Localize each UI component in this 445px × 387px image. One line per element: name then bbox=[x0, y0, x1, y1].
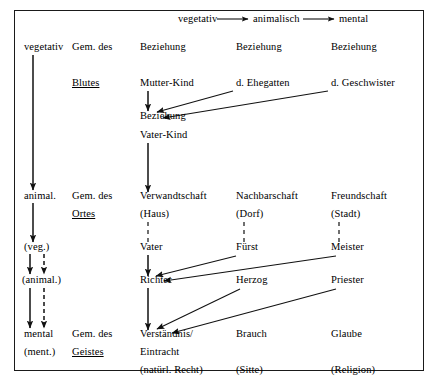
node-label-c2-vater-kind: Vater-Kind bbox=[140, 129, 187, 141]
node-label-c4-stadt: (Stadt) bbox=[331, 208, 360, 220]
node-label-c2-eintracht: Eintracht bbox=[140, 346, 179, 358]
node-label-c2-beziehung-1: Beziehung bbox=[140, 41, 186, 53]
header-label-mental: mental bbox=[339, 13, 368, 25]
node-label-c1-blutes: Blutes bbox=[72, 77, 99, 89]
header-label-vegetativ: vegetativ bbox=[178, 13, 217, 25]
node-label-c4-meister: Meister bbox=[331, 241, 364, 253]
node-label-c3-sitte: (Sitte) bbox=[236, 364, 263, 376]
node-label-c1-gem-des-1: Gem. des bbox=[72, 41, 112, 53]
node-label-c0-animal: animal. bbox=[24, 190, 56, 202]
node-label-c0-animal-paren: (animal.) bbox=[22, 274, 61, 286]
node-label-c2-vater: Vater bbox=[140, 241, 163, 253]
node-label-c3-brauch: Brauch bbox=[236, 328, 267, 340]
node-label-c2-verwandtschaft: Verwandtschaft bbox=[140, 190, 207, 202]
node-label-c2-natuerl-recht: (natürl. Recht) bbox=[140, 364, 203, 376]
node-label-c4-beziehung-1: Beziehung bbox=[331, 41, 377, 53]
node-label-c2-mutter-kind: Mutter-Kind bbox=[140, 77, 194, 89]
node-label-c2-verstaendnis: Verständnis/ bbox=[140, 328, 193, 340]
node-label-c4-glaube: Glaube bbox=[331, 328, 362, 340]
node-label-c1-gem-des-2: Gem. des bbox=[72, 190, 112, 202]
node-label-c1-geistes: Geistes bbox=[72, 346, 104, 358]
node-label-c1-ortes: Ortes bbox=[72, 208, 95, 220]
node-label-c3-fuerst: Fürst bbox=[236, 241, 258, 253]
node-label-c2-richter: Richter bbox=[140, 274, 172, 286]
node-label-c3-nachbarschaft: Nachbarschaft bbox=[236, 190, 298, 202]
node-label-c0-vegetativ: vegetativ bbox=[24, 41, 63, 53]
node-label-c3-dorf: (Dorf) bbox=[236, 208, 263, 220]
header-label-animalisch: animalisch bbox=[253, 13, 300, 25]
node-label-c3-ehegatten: d. Ehegatten bbox=[236, 77, 290, 89]
node-label-c2-beziehung-2: Beziehung bbox=[140, 110, 186, 122]
node-label-c4-freundschaft: Freundschaft bbox=[331, 190, 387, 202]
node-label-c2-haus: (Haus) bbox=[140, 208, 169, 220]
node-label-c3-beziehung-1: Beziehung bbox=[236, 41, 282, 53]
node-label-c4-priester: Priester bbox=[331, 274, 364, 286]
node-label-c3-herzog: Herzog bbox=[236, 274, 268, 286]
node-label-c0-ment-paren: (ment.) bbox=[24, 346, 55, 358]
node-label-c0-veg: (veg.) bbox=[24, 241, 49, 253]
node-label-c4-religion: (Religion) bbox=[331, 364, 375, 376]
diagram-canvas: vegetativanimalischmentalvegetativGem. d… bbox=[0, 0, 445, 387]
node-label-c0-mental: mental bbox=[24, 328, 53, 340]
node-label-c4-geschwister: d. Geschwister bbox=[331, 77, 395, 89]
node-label-c1-gem-des-3: Gem. des bbox=[72, 328, 112, 340]
